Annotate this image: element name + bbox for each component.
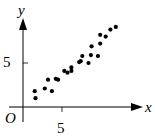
data-point: [108, 28, 112, 32]
data-point: [46, 78, 50, 82]
data-point: [80, 54, 84, 58]
x-axis-arrow-icon: [131, 103, 143, 111]
scatter-plot: [0, 0, 155, 140]
data-point: [96, 54, 100, 58]
data-point: [89, 53, 93, 57]
data-point: [86, 61, 90, 65]
data-point: [65, 71, 69, 75]
y-axis-label: y: [18, 3, 25, 18]
data-points: [33, 25, 118, 101]
y-axis-arrow-icon: [19, 18, 27, 30]
data-point: [43, 86, 47, 90]
data-point: [90, 44, 94, 48]
data-point: [104, 35, 108, 39]
data-point: [56, 78, 60, 82]
data-point: [98, 33, 102, 37]
data-point: [98, 42, 102, 46]
data-point: [79, 59, 83, 63]
origin-label: O: [5, 111, 16, 126]
data-point: [33, 96, 37, 100]
data-point: [69, 69, 73, 73]
data-point: [114, 25, 118, 29]
y-tick-label: 5: [3, 55, 11, 70]
x-axis-label: x: [145, 100, 152, 115]
data-point: [50, 89, 54, 93]
data-point: [33, 89, 37, 93]
x-tick-label: 5: [57, 121, 65, 136]
